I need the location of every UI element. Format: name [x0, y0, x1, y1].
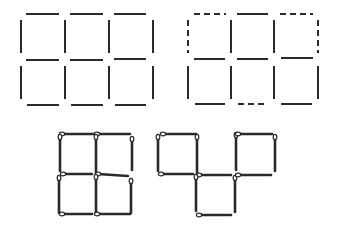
match-head-icon: [59, 212, 64, 216]
grid-dashed-figure: [188, 14, 318, 104]
match-head-icon: [235, 132, 240, 136]
matchstick: [234, 132, 238, 170]
match-head-icon: [130, 136, 134, 141]
matchstick: [196, 173, 231, 177]
matchstick: [94, 174, 98, 212]
matchstick: [60, 172, 92, 176]
match-head-icon: [196, 213, 201, 217]
match-head-icon: [160, 132, 165, 136]
matchstick: [160, 132, 196, 136]
matchstick: [59, 132, 94, 136]
match-head-icon: [60, 172, 65, 176]
matchstick: [195, 134, 199, 173]
matchstick: [196, 213, 231, 217]
matchstick: [94, 134, 98, 173]
matchstick-figure-left: [57, 132, 134, 216]
match-head-icon: [235, 173, 240, 177]
matchstick: [233, 175, 237, 212]
match-head-icon: [195, 134, 199, 139]
match-head-icon: [94, 212, 99, 216]
match-head-icon: [94, 134, 98, 139]
matchstick: [194, 174, 198, 211]
matchstick: [158, 172, 193, 176]
matchstick: [273, 134, 277, 171]
match-head-icon: [129, 178, 133, 183]
matchstick: [129, 178, 133, 213]
match-head-icon: [58, 134, 62, 139]
grid-solid-figure: [21, 14, 153, 105]
matchstick-figure-right: [156, 132, 277, 217]
match-head-icon: [94, 174, 98, 179]
matchstick: [235, 173, 271, 177]
matchstick: [58, 134, 62, 171]
matchstick: [95, 172, 128, 176]
match-head-icon: [158, 172, 163, 176]
matchstick: [156, 134, 160, 171]
match-head-icon: [194, 174, 198, 179]
match-head-icon: [156, 134, 160, 139]
matchstick: [57, 175, 61, 213]
matchstick: [130, 136, 134, 170]
matchstick: [235, 132, 272, 136]
match-head-icon: [57, 175, 61, 180]
matchstick: [94, 212, 130, 216]
matchstick: [94, 132, 130, 136]
matchstick-puzzle-diagram: [0, 0, 339, 235]
matchstick: [59, 212, 92, 216]
match-head-icon: [273, 134, 277, 139]
